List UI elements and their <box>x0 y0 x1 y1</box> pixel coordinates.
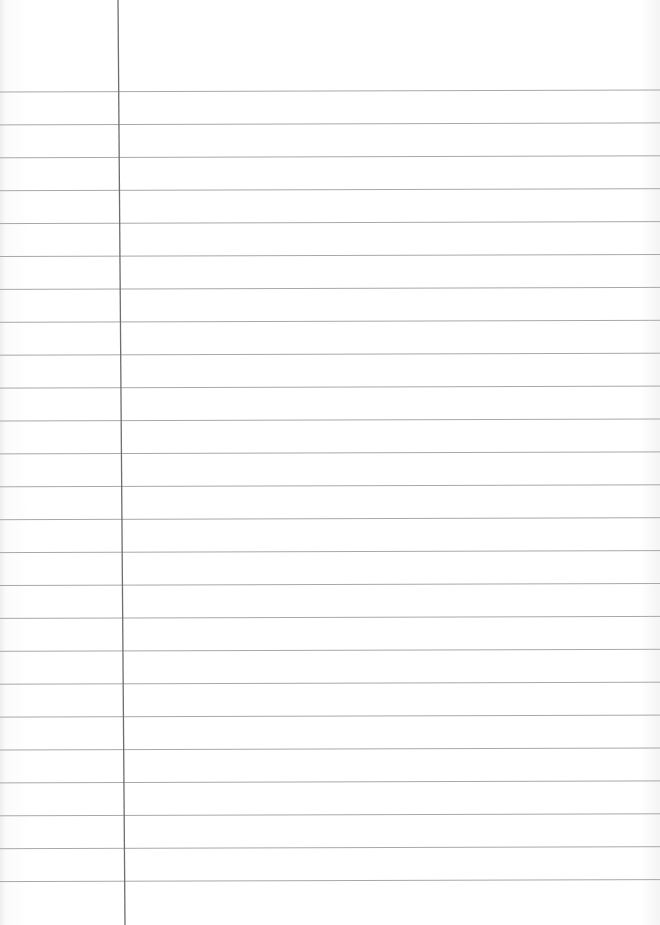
rule-line <box>0 353 660 355</box>
rule-line <box>0 386 660 388</box>
rule-line <box>0 123 660 125</box>
rule-line <box>0 616 660 618</box>
rule-line <box>0 682 660 684</box>
rule-line <box>0 287 660 289</box>
rule-line <box>0 551 660 553</box>
rule-line <box>0 880 660 882</box>
rule-line <box>0 90 660 92</box>
rule-line <box>0 156 660 158</box>
rule-line <box>0 419 660 421</box>
rule-line <box>0 320 660 322</box>
rule-line <box>0 518 660 520</box>
rule-line <box>0 222 660 224</box>
lined-paper-sheet <box>0 0 660 925</box>
rule-line <box>0 748 660 750</box>
margin-line <box>118 0 125 925</box>
ruled-lines <box>0 0 660 925</box>
rule-line <box>0 584 660 586</box>
rule-line <box>0 781 660 783</box>
rule-line <box>0 255 660 257</box>
rule-line <box>0 189 660 191</box>
rule-line <box>0 649 660 651</box>
rule-line <box>0 814 660 816</box>
rule-line <box>0 485 660 487</box>
rule-line <box>0 452 660 454</box>
rule-line <box>0 847 660 849</box>
rule-line <box>0 715 660 717</box>
